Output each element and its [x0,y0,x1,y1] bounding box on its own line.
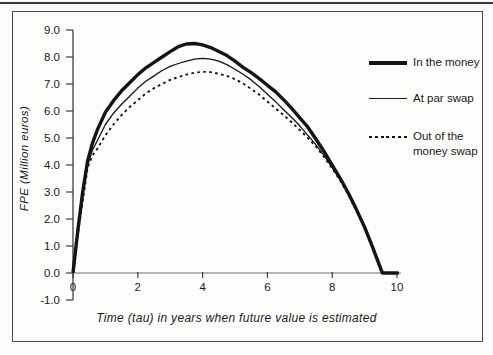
chart-legend: In the money At par swap Out of the mone… [369,0,487,200]
y-tick-label: 4.0 [44,159,60,171]
y-tick-label: 7.0 [44,78,60,90]
y-tick-label: 8.0 [44,51,60,63]
series-in-the-money [73,44,399,274]
y-tick-label: 3.0 [44,186,60,198]
x-tick-label: 8 [329,281,335,293]
series-out-of-the-money-swap [73,72,399,273]
thin-line-swatch-icon [369,98,407,99]
x-tick-label: 0 [70,281,76,293]
legend-item-out-of-the-money-swap: Out of the money swap [369,129,487,158]
y-tick-label: 5.0 [44,132,60,144]
legend-label: In the money [413,55,479,70]
y-tick-label: 0.0 [44,267,60,279]
dotted-line-swatch-icon [369,136,407,138]
legend-item-in-the-money: In the money [369,55,479,70]
y-tick-label: -1.0 [40,294,60,306]
y-tick-label: 1.0 [44,240,60,252]
legend-label: At par swap [413,91,474,106]
figure-page: 9.08.07.06.05.04.03.02.01.00.0-1.0024681… [0,0,493,355]
y-tick-label: 6.0 [44,105,60,117]
thick-line-swatch-icon [369,61,407,65]
legend-label: Out of the money swap [413,129,485,158]
x-tick-label: 4 [199,281,206,293]
x-tick-label: 2 [135,281,141,293]
y-tick-label: 2.0 [44,213,60,225]
y-tick-label: 9.0 [44,24,60,36]
x-tick-label: 6 [264,281,270,293]
legend-item-at-par-swap: At par swap [369,91,474,106]
x-axis-title: Time (tau) in years when future value is… [73,311,400,325]
y-axis-title: FPE (Million euros) [18,79,33,239]
x-tick-label: 10 [391,281,404,293]
